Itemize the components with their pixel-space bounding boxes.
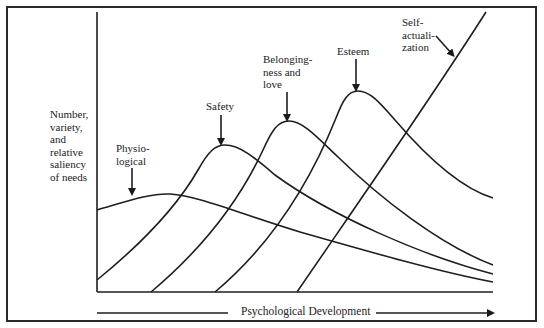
label-line: Self-: [402, 16, 435, 29]
label-line: Esteem: [337, 45, 369, 58]
curve-belonging: [151, 121, 493, 292]
y-axis-label: Number, variety, and relative saliency o…: [50, 108, 88, 183]
y-label-line: relative: [50, 146, 88, 159]
label-line: actuali-: [402, 29, 435, 42]
label-line: Physio-: [116, 142, 150, 155]
label-esteem: Esteem: [337, 45, 369, 58]
x-axis-label: Psychological Development: [235, 305, 376, 317]
label-physiological: Physio- logical: [116, 142, 150, 167]
y-label-line: of needs: [50, 171, 88, 184]
label-belonging: Belonging- ness and love: [263, 53, 313, 91]
curve-safety: [97, 145, 493, 280]
y-label-line: Number,: [50, 108, 88, 121]
y-label-line: and: [50, 133, 88, 146]
label-line: zation: [402, 41, 435, 54]
self-actualization-arrow-icon: [436, 36, 452, 54]
label-line: Safety: [206, 100, 234, 113]
curve-self-actualization: [297, 12, 486, 292]
label-line: ness and: [263, 66, 313, 79]
label-line: love: [263, 78, 313, 91]
label-self-actualization: Self- actuali- zation: [402, 16, 435, 54]
y-label-line: variety,: [50, 121, 88, 134]
curve-physiological: [97, 194, 493, 282]
label-line: Belonging-: [263, 53, 313, 66]
y-label-line: saliency: [50, 158, 88, 171]
label-safety: Safety: [206, 100, 234, 113]
label-line: logical: [116, 155, 150, 168]
